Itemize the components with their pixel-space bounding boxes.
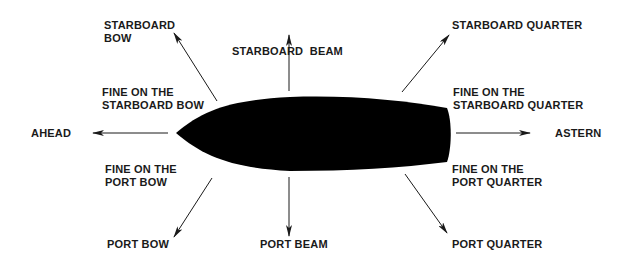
label-line: STARBOARD QUARTER: [452, 19, 582, 32]
label-starboard-quarter: STARBOARD QUARTER: [452, 19, 582, 32]
arrow-port-bow: [174, 178, 212, 237]
label-ahead: AHEAD: [31, 127, 71, 140]
label-starboard-beam: STARBOARD BEAM: [232, 19, 343, 71]
label-line: STARBOARD QUARTER: [453, 99, 583, 112]
label-line: AHEAD: [31, 127, 71, 140]
label-fine-port-quarter: FINE ON THE PORT QUARTER: [452, 163, 542, 189]
label-line: STARBOARD BOW: [102, 99, 204, 112]
label-port-bow: PORT BOW: [107, 238, 169, 251]
label-starboard-bow: STARBOARD BOW: [104, 19, 175, 45]
label-line: PORT BOW: [105, 176, 177, 189]
arrow-port-quarter: [405, 174, 447, 233]
label-line: FINE ON THE: [102, 86, 204, 99]
label-port-beam: PORT BEAM: [260, 238, 328, 251]
label-astern: ASTERN: [555, 127, 601, 140]
label-line: PORT QUARTER: [452, 238, 542, 251]
label-line: PORT BOW: [107, 238, 169, 251]
label-line: FINE ON THE: [453, 86, 583, 99]
label-port-quarter: PORT QUARTER: [452, 238, 542, 251]
label-fine-starboard-quarter: FINE ON THE STARBOARD QUARTER: [453, 86, 583, 112]
label-fine-starboard-bow: FINE ON THE STARBOARD BOW: [102, 86, 204, 112]
label-line: PORT BEAM: [260, 238, 328, 251]
ship-hull: [176, 97, 451, 171]
label-fine-port-bow: FINE ON THE PORT BOW: [105, 163, 177, 189]
label-line: BOW: [104, 32, 175, 45]
arrow-starboard-quarter: [402, 35, 449, 92]
label-line: STARBOARD: [104, 19, 175, 32]
label-line: FINE ON THE: [105, 163, 177, 176]
label-line: PORT QUARTER: [452, 176, 542, 189]
label-line: ASTERN: [555, 127, 601, 140]
label-line: FINE ON THE: [452, 163, 542, 176]
label-line: STARBOARD BEAM: [232, 45, 343, 58]
